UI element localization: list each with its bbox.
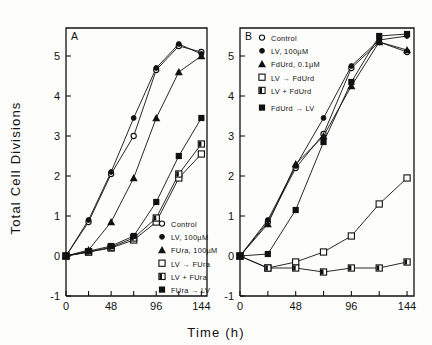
- legend-label-1: LV, 100µM: [171, 233, 208, 242]
- x-tick-label: 0: [237, 300, 243, 312]
- datapoint-5-2: [108, 243, 114, 249]
- y-tick-label: 5: [54, 50, 60, 62]
- datapoint-5-2: [293, 207, 299, 213]
- dual-panel-growth-chart: -101234504896144AControlLV, 100µMFUra, 1…: [0, 0, 432, 345]
- y-tick-label: 3: [228, 130, 234, 142]
- datapoint-0-3: [131, 133, 136, 138]
- legend-marker-2: [258, 60, 266, 67]
- legend-marker-3: [159, 260, 165, 266]
- x-tick-label: 0: [63, 300, 69, 312]
- y-tick-label: -1: [224, 290, 234, 302]
- datapoint-5-6: [404, 31, 410, 37]
- y-tick-label: 2: [228, 170, 234, 182]
- panel-A-frame: [66, 28, 207, 296]
- legend-marker-4-fill: [259, 88, 262, 93]
- legend-marker-4-fill: [159, 274, 162, 279]
- legend-label-2: FdUrd, 0.1µM: [271, 60, 320, 69]
- datapoint-5-4: [153, 199, 159, 205]
- datapoint-5-6: [198, 115, 204, 121]
- datapoint-1-3: [321, 116, 326, 121]
- x-tick-label: 96: [150, 300, 162, 312]
- x-tick-label: 144: [398, 300, 416, 312]
- y-tick-label: 0: [54, 250, 60, 262]
- y-tick-label: 4: [228, 90, 234, 102]
- datapoint-4-4-fill: [154, 215, 157, 220]
- datapoint-3-5: [376, 201, 382, 207]
- legend-marker-1: [160, 234, 165, 239]
- legend-label-2: FUra, 100µM: [171, 246, 218, 255]
- legend-label-0: Control: [271, 34, 297, 43]
- y-tick-label: 3: [54, 130, 60, 142]
- legend-label-4: LV + FUra: [171, 273, 208, 282]
- datapoint-1-1: [86, 218, 91, 223]
- datapoint-4-5-fill: [377, 265, 380, 270]
- datapoint-5-5: [376, 33, 382, 39]
- datapoint-3-3: [320, 249, 326, 255]
- legend-marker-5: [259, 105, 265, 111]
- datapoint-5-0: [63, 253, 69, 259]
- x-axis-title: Time (h): [187, 325, 245, 340]
- x-tick-label: 48: [290, 300, 302, 312]
- legend-label-5: FdUrd → LV: [271, 104, 315, 113]
- datapoint-3-2: [293, 259, 299, 265]
- legend-marker-2: [158, 246, 166, 253]
- panel-A: -101234504896144AControlLV, 100µMFUra, 1…: [50, 28, 217, 312]
- datapoint-4-6-fill: [404, 259, 407, 264]
- legend-label-3: LV → FdUrd: [271, 74, 315, 83]
- legend-marker-0: [259, 35, 264, 40]
- y-tick-label: 2: [54, 170, 60, 182]
- x-tick-label: 144: [192, 300, 210, 312]
- panel-label: B: [245, 30, 252, 42]
- datapoint-3-4: [348, 233, 354, 239]
- x-tick-label: 48: [105, 300, 117, 312]
- datapoint-1-4: [154, 66, 159, 71]
- datapoint-5-3: [131, 233, 137, 239]
- datapoint-5-3: [320, 139, 326, 145]
- datapoint-1-3: [131, 116, 136, 121]
- datapoint-4-2-fill: [293, 265, 296, 270]
- y-tick-label: 1: [228, 210, 234, 222]
- legend-label-4: LV + FdUrd: [271, 87, 311, 96]
- datapoint-4-3-fill: [321, 269, 324, 274]
- datapoint-1-5: [176, 42, 181, 47]
- y-tick-label: 1: [54, 210, 60, 222]
- datapoint-5-1: [85, 248, 91, 254]
- figure-container: -101234504896144AControlLV, 100µMFUra, 1…: [0, 0, 432, 345]
- y-tick-label: 4: [54, 90, 60, 102]
- datapoint-5-5: [176, 153, 182, 159]
- panel-label: A: [71, 30, 78, 42]
- legend-label-3: LV → FUra: [171, 260, 211, 269]
- datapoint-1-4: [349, 64, 354, 69]
- datapoint-4-4-fill: [349, 265, 352, 270]
- legend-marker-0: [159, 221, 164, 226]
- y-tick-label: -1: [50, 290, 60, 302]
- legend-marker-1: [260, 48, 265, 53]
- datapoint-4-6-fill: [199, 141, 202, 146]
- datapoint-2-3: [130, 174, 138, 181]
- datapoint-2-2: [107, 218, 115, 225]
- datapoint-5-0: [237, 253, 243, 259]
- datapoint-4-5-fill: [176, 171, 179, 176]
- legend-label-1: LV, 100µM: [271, 47, 308, 56]
- panel-B: -101234504896144BControlLV, 100µMFdUrd, …: [224, 28, 416, 312]
- datapoint-1-2: [109, 170, 114, 175]
- legend-marker-3: [259, 74, 265, 80]
- datapoint-4-1-fill: [265, 265, 268, 270]
- datapoint-2-4: [152, 114, 160, 121]
- y-tick-label: 5: [228, 50, 234, 62]
- y-axis-title: Total Cell Divisions: [8, 101, 23, 234]
- datapoint-3-6: [404, 175, 410, 181]
- y-tick-label: 0: [228, 250, 234, 262]
- x-tick-label: 96: [345, 300, 357, 312]
- datapoint-2-5: [175, 68, 183, 75]
- legend-marker-5: [159, 287, 165, 293]
- datapoint-5-1: [265, 251, 271, 257]
- legend-label-0: Control: [171, 220, 197, 229]
- legend-label-5: FUra → LV: [171, 286, 210, 295]
- datapoint-5-4: [348, 79, 354, 85]
- datapoint-3-6: [198, 151, 204, 157]
